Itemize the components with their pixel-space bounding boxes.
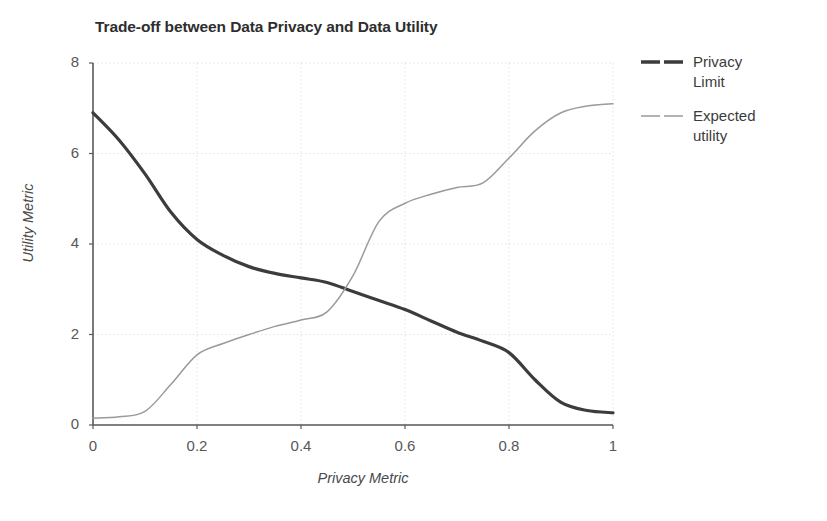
x-tick-label: 0.6 bbox=[382, 437, 428, 454]
series-line-0 bbox=[93, 113, 613, 413]
legend-item[interactable]: Privacy Limit bbox=[640, 52, 815, 92]
tick-marks bbox=[89, 63, 613, 429]
series-line-1 bbox=[93, 104, 613, 418]
legend-item-label: Privacy Limit bbox=[693, 52, 742, 92]
gridlines bbox=[93, 63, 613, 425]
x-tick-label: 0.8 bbox=[486, 437, 532, 454]
x-tick-label: 0.2 bbox=[174, 437, 220, 454]
series-lines bbox=[93, 104, 613, 418]
x-tick-label: 0 bbox=[70, 437, 116, 454]
chart-legend: Privacy LimitExpected utility bbox=[640, 52, 815, 160]
y-tick-label: 0 bbox=[55, 415, 79, 432]
y-tick-label: 2 bbox=[55, 325, 79, 342]
legend-line-icon bbox=[640, 52, 684, 72]
y-axis-title: Utility Metric bbox=[20, 168, 36, 278]
legend-line-icon bbox=[640, 106, 684, 126]
y-tick-label: 6 bbox=[55, 144, 79, 161]
chart-figure: Trade-off between Data Privacy and Data … bbox=[0, 0, 827, 521]
x-tick-label: 0.4 bbox=[278, 437, 324, 454]
legend-item[interactable]: Expected utility bbox=[640, 106, 815, 146]
y-tick-label: 8 bbox=[55, 53, 79, 70]
y-tick-label: 4 bbox=[55, 234, 79, 251]
legend-item-label: Expected utility bbox=[693, 106, 756, 146]
x-tick-label: 1 bbox=[590, 437, 636, 454]
x-axis-title: Privacy Metric bbox=[283, 470, 443, 486]
